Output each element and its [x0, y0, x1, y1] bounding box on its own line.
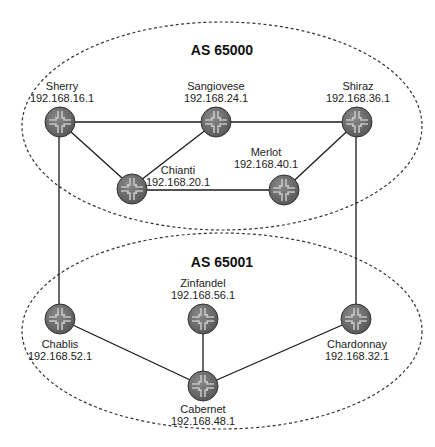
router-ip: 192.168.36.1 [326, 92, 390, 104]
router-name: Chianti [146, 164, 210, 176]
router-sherry[interactable] [44, 106, 76, 138]
router-ip: 192.168.52.1 [28, 350, 92, 362]
router-ip: 192.168.16.1 [30, 92, 94, 104]
as-65000-label: AS 65000 [191, 42, 253, 58]
router-chianti[interactable] [116, 173, 148, 205]
label-merlot: Merlot 192.168.40.1 [234, 146, 298, 170]
router-shiraz[interactable] [341, 106, 373, 138]
as-65001-label: AS 65001 [191, 254, 253, 270]
router-name: Chardonnay [325, 338, 389, 350]
label-sherry: Sherry 192.168.16.1 [30, 80, 94, 104]
router-ip: 192.168.20.1 [146, 176, 210, 188]
router-sangiovese[interactable] [200, 106, 232, 138]
router-ip: 192.168.56.1 [171, 289, 235, 301]
label-sangiovese: Sangiovese 192.168.24.1 [184, 80, 248, 104]
router-name: Sherry [30, 80, 94, 92]
label-chardonnay: Chardonnay 192.168.32.1 [325, 338, 389, 362]
network-diagram: AS 65000 AS 65001 S [0, 0, 435, 447]
router-name: Shiraz [326, 80, 390, 92]
router-ip: 192.168.24.1 [184, 92, 248, 104]
router-ip: 192.168.40.1 [234, 158, 298, 170]
router-cabernet[interactable] [187, 370, 219, 402]
label-cabernet: Cabernet 192.168.48.1 [171, 403, 235, 427]
label-zinfandel: Zinfandel 192.168.56.1 [171, 277, 235, 301]
router-name: Cabernet [171, 403, 235, 415]
label-chablis: Chablis 192.168.52.1 [28, 338, 92, 362]
router-chardonnay[interactable] [340, 303, 372, 335]
router-merlot[interactable] [268, 174, 300, 206]
router-chablis[interactable] [44, 303, 76, 335]
router-ip: 192.168.32.1 [325, 350, 389, 362]
router-ip: 192.168.48.1 [171, 415, 235, 427]
router-name: Zinfandel [171, 277, 235, 289]
router-name: Merlot [234, 146, 298, 158]
router-zinfandel[interactable] [187, 303, 219, 335]
label-shiraz: Shiraz 192.168.36.1 [326, 80, 390, 104]
router-name: Sangiovese [184, 80, 248, 92]
router-name: Chablis [28, 338, 92, 350]
label-chianti: Chianti 192.168.20.1 [146, 164, 210, 188]
